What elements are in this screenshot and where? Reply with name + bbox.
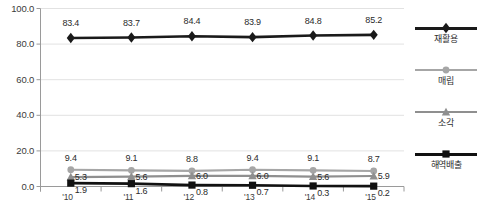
data-label: 0.3: [317, 188, 329, 198]
y-axis-tick-label: 40.0: [0, 109, 34, 120]
data-point-marker: [309, 30, 317, 40]
legend-swatch-diamond-icon: [409, 22, 483, 34]
legend-label: 재활용: [409, 34, 483, 45]
legend-label: 해역배출: [409, 160, 483, 171]
data-point-marker: [370, 183, 377, 190]
data-label: 83.9: [233, 17, 273, 27]
data-label: 5.6: [135, 172, 147, 182]
data-point-marker: [370, 30, 378, 40]
data-point-marker: [128, 180, 135, 187]
data-point-marker: [310, 182, 317, 189]
legend-marker-square-icon: [438, 147, 454, 161]
series-line-3: [71, 183, 374, 186]
legend-marker-triangle-icon: [438, 105, 454, 119]
legend-item-2[interactable]: 소각: [409, 106, 483, 129]
data-label: 1.6: [135, 186, 147, 196]
data-label: 9.1: [293, 153, 333, 163]
data-label: 5.3: [75, 172, 87, 182]
data-label: 0.2: [378, 188, 390, 198]
legend-swatch-circle-icon: [409, 64, 483, 76]
legend-item-1[interactable]: 매립: [409, 64, 483, 87]
y-axis-tick-label: 100.0: [0, 3, 34, 14]
x-axis-tick-label: '15: [358, 192, 376, 202]
data-point-marker: [248, 32, 256, 42]
data-label: 84.8: [293, 16, 333, 26]
legend-swatch-triangle-icon: [409, 106, 483, 118]
data-label: 9.4: [233, 153, 273, 163]
data-label: 8.8: [172, 154, 212, 164]
data-label: 5.6: [317, 172, 329, 182]
y-axis-tick-label: 80.0: [0, 38, 34, 49]
series-line-0: [71, 35, 374, 38]
data-label: 83.4: [51, 18, 91, 28]
data-label: 8.7: [354, 154, 394, 164]
chart-container: 100.080.060.040.020.00.0'10'11'12'13'14'…: [0, 0, 487, 211]
data-point-marker: [127, 32, 135, 42]
data-label: 9.1: [111, 153, 151, 163]
legend-item-3[interactable]: 해역배출: [409, 148, 483, 171]
data-point-marker: [442, 150, 449, 157]
data-label: 0.8: [196, 187, 208, 197]
x-axis-tick-label: '12: [176, 192, 194, 202]
y-axis-tick-label: 60.0: [0, 74, 34, 85]
data-label: 6.0: [196, 171, 208, 181]
data-point-marker: [188, 31, 196, 41]
legend-marker-diamond-icon: [438, 21, 454, 35]
data-point-marker: [442, 108, 450, 116]
data-point-marker: [67, 180, 74, 187]
chart-caption: [0, 203, 487, 211]
legend-item-0[interactable]: 재활용: [409, 22, 483, 45]
data-point-marker: [67, 33, 75, 43]
data-point-marker: [67, 166, 74, 173]
legend-label: 매립: [409, 76, 483, 87]
data-label: 85.2: [354, 15, 394, 25]
data-label: 0.7: [257, 187, 269, 197]
y-axis-tick-label: 0.0: [0, 181, 34, 192]
data-label: 5.9: [378, 171, 390, 181]
data-point-marker: [443, 67, 450, 74]
data-point-marker: [249, 182, 256, 189]
data-label: 1.9: [75, 185, 87, 195]
data-point-marker: [188, 181, 195, 188]
x-axis-tick-label: '14: [297, 192, 315, 202]
data-label: 6.0: [257, 171, 269, 181]
x-axis-tick-label: '11: [115, 192, 133, 202]
x-axis-tick-label: '10: [55, 192, 73, 202]
data-label: 84.4: [172, 16, 212, 26]
legend-label: 소각: [409, 118, 483, 129]
legend-marker-circle-icon: [438, 63, 454, 77]
x-axis-tick-label: '13: [237, 192, 255, 202]
data-point-marker: [442, 23, 450, 33]
data-label: 9.4: [51, 153, 91, 163]
y-axis-tick-label: 20.0: [0, 145, 34, 156]
legend-swatch-square-icon: [409, 148, 483, 160]
data-label: 83.7: [111, 18, 151, 28]
